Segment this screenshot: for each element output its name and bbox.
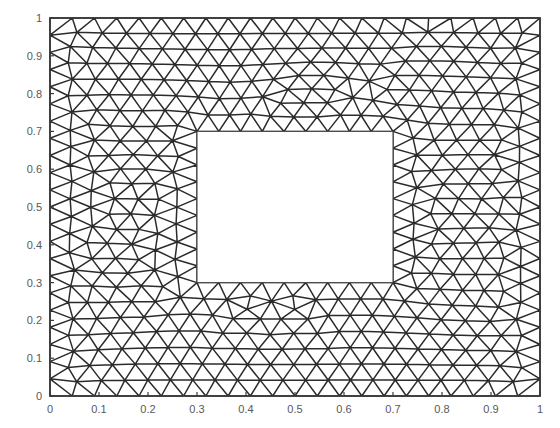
y-tick-label: 0.1 (0, 353, 42, 364)
x-tick-label: 0.1 (91, 404, 106, 415)
x-tick-label: 0.5 (287, 404, 302, 415)
y-tick-label: 0 (0, 391, 42, 402)
y-tick-label: 0.9 (0, 50, 42, 61)
y-tick-label: 0.3 (0, 277, 42, 288)
y-tick-label: 0.2 (0, 315, 42, 326)
y-tick-label: 0.7 (0, 126, 42, 137)
x-tick-label: 1 (537, 404, 543, 415)
x-tick-label: 0 (47, 404, 53, 415)
mesh-edge-group (50, 18, 540, 396)
x-tick-label: 0.7 (385, 404, 400, 415)
y-tick-label: 0.8 (0, 88, 42, 99)
x-tick-label: 0.9 (483, 404, 498, 415)
y-tick-label: 1 (0, 13, 42, 24)
x-tick-label: 0.8 (434, 404, 449, 415)
y-tick-label: 0.6 (0, 164, 42, 175)
mesh-plot-svg (0, 0, 560, 428)
mesh-hole-region (197, 131, 393, 282)
x-tick-label: 0.3 (189, 404, 204, 415)
y-tick-label: 0.4 (0, 239, 42, 250)
mesh-figure: 00.10.20.30.40.50.60.70.80.91 00.10.20.3… (0, 0, 560, 428)
x-tick-label: 0.2 (140, 404, 155, 415)
x-tick-label: 0.4 (238, 404, 253, 415)
y-tick-label: 0.5 (0, 202, 42, 213)
x-tick-label: 0.6 (336, 404, 351, 415)
